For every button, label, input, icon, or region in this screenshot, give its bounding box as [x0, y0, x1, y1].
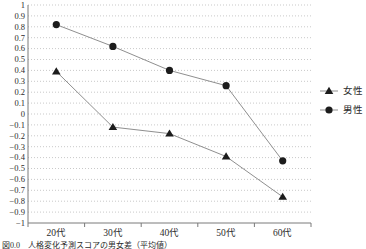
y-axis-label: 0.7 [14, 33, 25, 43]
series-marker-male-circle-icon [109, 43, 116, 50]
y-axis-label: −0.3 [10, 142, 25, 152]
y-axis-label: 0.5 [14, 54, 25, 64]
x-axis-label: 60代 [273, 228, 293, 238]
y-axis-label: −0.2 [10, 131, 25, 141]
y-axis-label: −0.5 [10, 163, 25, 173]
y-axis-label: −1 [16, 218, 25, 228]
x-axis-label: 30代 [103, 228, 123, 238]
y-axis-label: −0.8 [10, 196, 25, 206]
x-axis-label: 40代 [160, 228, 180, 238]
y-axis-label: 0.9 [14, 11, 25, 21]
y-axis-label: 0.3 [14, 76, 25, 86]
series-marker-male-circle-icon [223, 82, 230, 89]
y-axis-label: −0.9 [10, 207, 25, 217]
y-axis-label: −0.7 [10, 185, 25, 195]
legend-label-male: 男性 [343, 104, 363, 115]
y-axis-label: 0.6 [14, 43, 25, 53]
x-axis-label: 50代 [216, 228, 236, 238]
legend-marker-male-circle-icon [325, 106, 332, 113]
series-marker-male-circle-icon [166, 67, 173, 74]
series-marker-male-circle-icon [53, 21, 60, 28]
series-marker-female-triangle-icon [52, 67, 61, 74]
chart-canvas: 10.90.80.70.60.50.40.30.20.10−0.1−0.2−0.… [0, 0, 366, 249]
y-axis-label: 0 [21, 109, 25, 119]
series-marker-male-circle-icon [279, 157, 286, 164]
y-axis-label: −0.6 [10, 174, 25, 184]
figure-caption: 図0.0 人格変化予測スコアの男女差（平均値） [2, 239, 172, 249]
y-axis-label: 0.8 [14, 22, 25, 32]
line-chart-figure: 10.90.80.70.60.50.40.30.20.10−0.1−0.2−0.… [0, 0, 366, 249]
y-axis-label: −0.1 [10, 120, 25, 130]
y-axis-label: 0.1 [14, 98, 25, 108]
series-marker-female-triangle-icon [278, 193, 287, 200]
legend-marker-female-triangle-icon [325, 87, 334, 94]
series-line-male [56, 25, 282, 161]
y-axis-label: 0.2 [14, 87, 25, 97]
x-axis-label: 20代 [47, 228, 67, 238]
y-axis-label: 1 [21, 0, 25, 10]
y-axis-label: 0.4 [14, 65, 25, 75]
series-marker-female-triangle-icon [222, 152, 231, 159]
y-axis-label: −0.4 [10, 152, 26, 162]
legend-label-female: 女性 [343, 85, 363, 96]
